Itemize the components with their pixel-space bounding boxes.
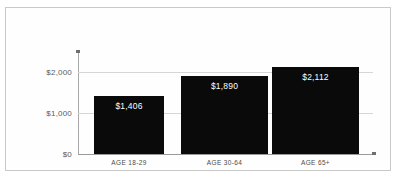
chart-frame: $1,406$1,890$2,112 $0$1,000$2,000 AGE 18… xyxy=(5,7,391,171)
x-axis-category-label: AGE 65+ xyxy=(266,159,365,166)
plot-area: $1,406$1,890$2,112 xyxy=(78,51,373,154)
x-axis-category-label: AGE 30-64 xyxy=(175,159,274,166)
bar[interactable]: $1,406 xyxy=(94,96,164,154)
x-axis-category-label: AGE 18-29 xyxy=(88,159,170,166)
bar[interactable]: $2,112 xyxy=(272,67,359,154)
y-axis-tick-label: $2,000 xyxy=(46,68,72,77)
x-axis-line xyxy=(78,154,375,155)
bar-value-label: $1,406 xyxy=(94,101,164,111)
bar-value-label: $2,112 xyxy=(272,72,359,82)
bar[interactable]: $1,890 xyxy=(181,76,268,154)
y-axis-tick-labels: $0$1,000$2,000 xyxy=(20,8,72,185)
y-axis-tick-label: $0 xyxy=(63,150,72,159)
y-axis-tick-label: $1,000 xyxy=(46,109,72,118)
bar-value-label: $1,890 xyxy=(181,81,268,91)
